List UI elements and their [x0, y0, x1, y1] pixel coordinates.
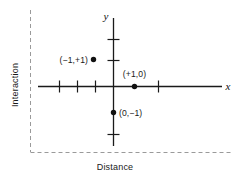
data-point-marker	[132, 84, 137, 89]
data-point-marker	[111, 110, 116, 115]
coordinate-plot-svg: y x (−1,+1) (+1,0) (0,−1) Distance Inter…	[0, 0, 245, 178]
x-axis-title-distance: Distance	[97, 162, 134, 172]
coordinate-diagram-figure: y x (−1,+1) (+1,0) (0,−1) Distance Inter…	[0, 0, 245, 178]
dashed-frame	[31, 10, 232, 153]
y-axis-symbol-label: y	[103, 10, 109, 22]
data-point-label-zero-minus1: (0,−1)	[119, 108, 142, 118]
data-point-marker	[91, 57, 96, 62]
data-point-zero-minus1: (0,−1)	[111, 108, 143, 118]
x-axis-symbol-label: x	[225, 80, 231, 92]
y-axis-title-interaction: Interaction	[10, 63, 20, 107]
data-point-minus1-plus1: (−1,+1)	[60, 55, 97, 65]
data-point-label-minus1-plus1: (−1,+1)	[60, 55, 88, 65]
data-point-label-plus1-zero: (+1,0)	[123, 69, 146, 79]
